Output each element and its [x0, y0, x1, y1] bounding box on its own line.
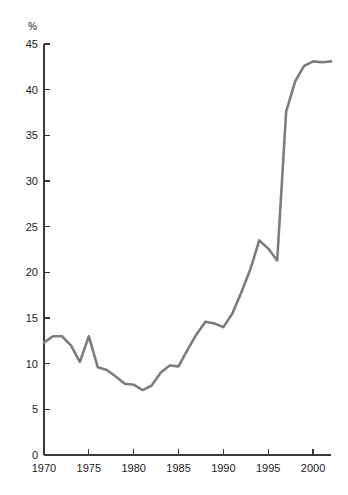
y-tick-label: 0 [32, 449, 38, 461]
x-axis-ticks: 1970197519801985199019952000 [32, 449, 326, 474]
x-tick-label: 1995 [256, 462, 280, 474]
y-axis-unit-label: % [28, 21, 37, 32]
x-tick-label: 1985 [166, 462, 190, 474]
x-tick-label: 1990 [211, 462, 235, 474]
y-tick-label: 20 [26, 266, 38, 278]
x-tick-label: 2000 [301, 462, 325, 474]
data-series-line [44, 61, 331, 390]
figure-caption [0, 484, 348, 495]
y-tick-label: 25 [26, 221, 38, 233]
y-tick-label: 10 [26, 358, 38, 370]
y-tick-label: 45 [26, 38, 38, 50]
y-tick-label: 35 [26, 129, 38, 141]
chart-plot-area: 051015202530354045 197019751980198519901… [0, 0, 348, 495]
x-tick-label: 1975 [77, 462, 101, 474]
y-tick-label: 15 [26, 312, 38, 324]
x-tick-label: 1980 [121, 462, 145, 474]
y-tick-label: 30 [26, 175, 38, 187]
line-chart: 051015202530354045 197019751980198519901… [0, 0, 348, 495]
y-tick-label: 5 [32, 403, 38, 415]
y-tick-label: 40 [26, 84, 38, 96]
y-axis-ticks: 051015202530354045 [26, 38, 50, 461]
x-tick-label: 1970 [32, 462, 56, 474]
